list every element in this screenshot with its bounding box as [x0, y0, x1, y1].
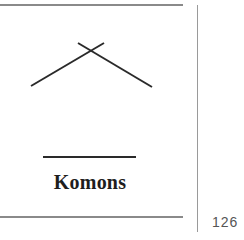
symbol-stroke-left: [31, 43, 104, 86]
symbol-underline: [43, 156, 136, 158]
page-number: 126: [212, 214, 238, 230]
symbol-label: Komons: [40, 171, 140, 193]
symbol-stroke-right: [78, 43, 152, 87]
symbol-diagram: [0, 0, 244, 240]
